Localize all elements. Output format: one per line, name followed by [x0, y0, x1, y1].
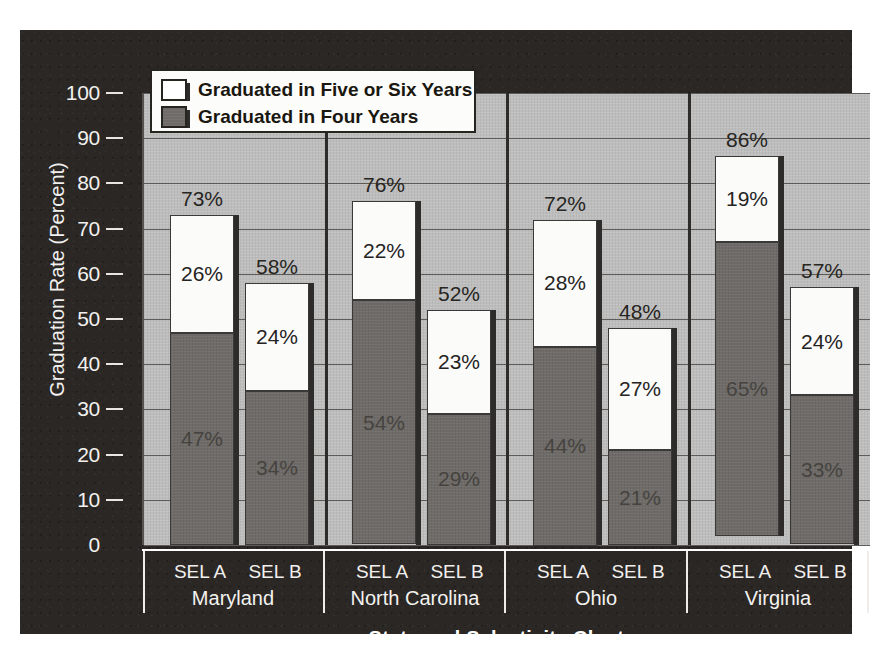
- y-tick-label-70: 70: [34, 218, 100, 239]
- bar-label-four-years: 34%: [227, 456, 327, 480]
- bar-total-label: 48%: [590, 300, 690, 324]
- x-axis-title: State and Selectivity Cluster: [142, 627, 870, 650]
- bar-total-label: 73%: [152, 187, 252, 211]
- bar-total-label: 52%: [409, 282, 509, 306]
- legend-label-five-or-six-years: Graduated in Five or Six Years: [198, 79, 472, 101]
- bar-shadow: [672, 328, 677, 545]
- bar-label-four-years: 21%: [590, 486, 690, 510]
- bar-label-five-or-six-years: 19%: [697, 187, 797, 211]
- y-tick-mark-20: [106, 454, 123, 456]
- y-tick-mark-70: [106, 228, 123, 230]
- bar-label-four-years: 33%: [772, 458, 872, 482]
- bar-label-five-or-six-years: 24%: [772, 330, 872, 354]
- chart-legend: Graduated in Five or Six Years Graduated…: [150, 69, 476, 133]
- legend-swatch-white-icon: [161, 79, 187, 101]
- legend-swatch-gray-icon: [161, 106, 187, 128]
- y-tick-mark-100: [106, 92, 123, 94]
- bar-total-label: 86%: [697, 128, 797, 152]
- bar-total-label: 57%: [772, 259, 872, 283]
- bar-label-four-years: 47%: [152, 427, 252, 451]
- x-axis-cluster-label-5: SEL B: [590, 561, 686, 583]
- x-axis-state-label-ohio: Ohio: [505, 587, 687, 610]
- bar-shadow: [491, 310, 496, 545]
- chart-panel: Graduation Rate (Percent) 10090807060504…: [20, 30, 852, 634]
- bar-total-label: 72%: [515, 192, 615, 216]
- y-tick-label-30: 30: [34, 398, 100, 419]
- x-axis-state-label-north-carolina: North Carolina: [324, 587, 506, 610]
- x-axis-band: SEL ASEL BSEL ASEL BSEL ASEL BSEL ASEL B…: [142, 549, 870, 625]
- bar-north-carolina-sel-b[interactable]: [427, 310, 491, 545]
- y-tick-mark-90: [106, 137, 123, 139]
- bar-label-five-or-six-years: 27%: [590, 377, 690, 401]
- bar-label-five-or-six-years: 22%: [334, 239, 434, 263]
- y-tick-mark-40: [106, 363, 123, 365]
- bar-label-four-years: 65%: [697, 377, 797, 401]
- y-tick-label-40: 40: [34, 353, 100, 374]
- bar-label-five-or-six-years: 23%: [409, 350, 509, 374]
- bar-label-five-or-six-years: 28%: [515, 271, 615, 295]
- bar-label-four-years: 54%: [334, 411, 434, 435]
- bar-shadow: [854, 287, 859, 545]
- y-tick-label-60: 60: [34, 263, 100, 284]
- legend-item-five-or-six-years: Graduated in Five or Six Years: [161, 77, 472, 103]
- bar-total-label: 58%: [227, 255, 327, 279]
- x-axis-cluster-label-1: SEL B: [227, 561, 323, 583]
- y-tick-mark-50: [106, 318, 123, 320]
- x-axis-state-label-virginia: Virginia: [687, 587, 869, 610]
- x-axis-cluster-label-7: SEL B: [772, 561, 868, 583]
- bar-maryland-sel-b[interactable]: [245, 283, 309, 545]
- y-tick-label-50: 50: [34, 308, 100, 329]
- y-tick-label-10: 10: [34, 489, 100, 510]
- bar-virginia-sel-a[interactable]: [715, 156, 779, 536]
- y-tick-mark-30: [106, 408, 123, 410]
- x-axis-cluster-label-3: SEL B: [409, 561, 505, 583]
- bar-label-four-years: 44%: [515, 434, 615, 458]
- y-tick-label-0: 0: [34, 534, 100, 555]
- bar-label-four-years: 29%: [409, 467, 509, 491]
- y-tick-label-100: 100: [34, 82, 100, 103]
- bar-label-five-or-six-years: 24%: [227, 325, 327, 349]
- bar-ohio-sel-a[interactable]: [533, 220, 597, 545]
- bar-ohio-sel-b[interactable]: [608, 328, 672, 545]
- bar-virginia-sel-b[interactable]: [790, 287, 854, 545]
- bar-total-label: 76%: [334, 173, 434, 197]
- y-tick-mark-10: [106, 499, 123, 501]
- plot-area: 73%26%47%58%24%34%76%22%54%52%23%29%72%2…: [142, 93, 870, 545]
- y-tick-mark-80: [106, 182, 123, 184]
- legend-item-four-years: Graduated in Four Years: [161, 104, 418, 130]
- x-axis-state-label-maryland: Maryland: [142, 587, 324, 610]
- y-tick-mark-60: [106, 273, 123, 275]
- y-tick-label-80: 80: [34, 172, 100, 193]
- y-tick-label-20: 20: [34, 444, 100, 465]
- bar-shadow: [309, 283, 314, 545]
- y-tick-label-90: 90: [34, 127, 100, 148]
- chart-page: Graduation Rate (Percent) 10090807060504…: [0, 0, 872, 658]
- legend-label-four-years: Graduated in Four Years: [198, 106, 418, 128]
- gridline-0: [144, 545, 870, 546]
